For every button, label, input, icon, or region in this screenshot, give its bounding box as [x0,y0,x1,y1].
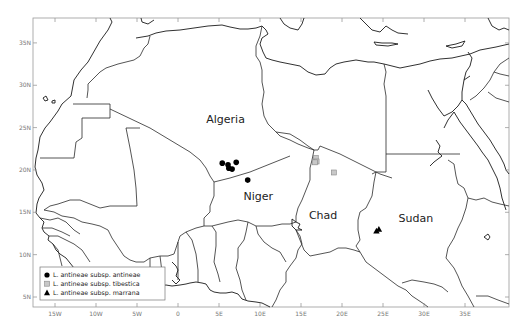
x-tick-label: 0 [176,310,180,317]
legend-square-icon [45,281,50,286]
country-label-niger: Niger [244,190,274,203]
y-tick-label: 25N [19,124,31,131]
x-tick-label: 5W [132,310,142,317]
marker-antineae [245,177,251,183]
coastline-canary-islands [43,96,55,103]
border-mauritania-south [44,200,137,210]
y-tick-label: 5N [23,293,31,300]
marker-antineae [219,160,225,166]
distribution-map: 15W10W5W05E10E15E20E25E30E35E 35N30N25N2… [0,0,526,327]
coastline-red-sea-west [444,112,506,210]
legend-label-marrana: L. antineae subsp. marrana [53,289,140,297]
y-axis: 35N30N25N20N15N10N5N [19,39,509,300]
x-tick-label: 5E [215,310,223,317]
marker-tibestica [331,170,336,175]
coastline-south-europe [280,18,509,34]
border-niger-nigeria [212,220,296,226]
coastline-crete [374,42,398,46]
coastline-mediterranean [136,25,509,75]
x-tick-label: 15E [295,310,307,317]
legend-circle-icon [44,272,49,277]
border-chad-sudan [356,172,376,252]
marker-antineae [229,166,235,172]
lake-chad [292,219,302,230]
x-tick-label: 15W [48,310,62,317]
border-mauritania-algeria-mali [110,109,214,206]
lake-victoria-area [484,234,490,240]
country-label-chad: Chad [309,209,337,222]
x-tick-label: 35E [459,310,471,317]
geography [35,18,509,307]
y-tick-label: 30N [19,81,31,88]
x-tick-label: 10E [254,310,266,317]
coastline-cyprus [446,41,465,48]
marker-tibestica [312,160,317,165]
legend-label-antineae: L. antineae subsp. antineae [53,271,141,279]
country-label-sudan: Sudan [398,212,433,225]
x-tick-label: 10W [89,310,103,317]
legend-label-tibestica: L. antineae subsp. tibestica [53,280,140,288]
country-labels: AlgeriaNigerChadSudan [206,113,433,225]
x-tick-label: 25E [377,310,389,317]
y-tick-label: 15N [19,208,31,215]
border-morocco-algeria [87,36,150,98]
border-sudan-ethiopia [446,160,509,307]
coastline-northwest-africa [35,18,154,213]
y-tick-label: 10N [19,251,31,258]
border-western-sahara [40,104,110,158]
lake-nasser [430,140,442,166]
border-chad-car [296,230,360,256]
border-horn-arabia [470,58,509,304]
marker-antineae [233,160,239,166]
y-tick-label: 20N [19,166,31,173]
x-tick-label: 30E [418,310,430,317]
border-senegal-gambia-guinea [40,218,90,266]
map-frame [33,18,509,307]
border-sudan-south [360,252,448,307]
y-tick-label: 35N [19,39,31,46]
country-label-algeria: Algeria [206,113,245,126]
border-libya-egypt [384,64,386,154]
legend: L. antineae subsp. antineae L. antineae … [40,267,165,300]
x-tick-label: 20E [336,310,348,317]
coastline-levant-red-sea [428,52,509,174]
border-algeria-tunisia-libya [256,26,314,150]
border-chad-cameroon [272,230,302,307]
lake-volta [172,262,180,284]
